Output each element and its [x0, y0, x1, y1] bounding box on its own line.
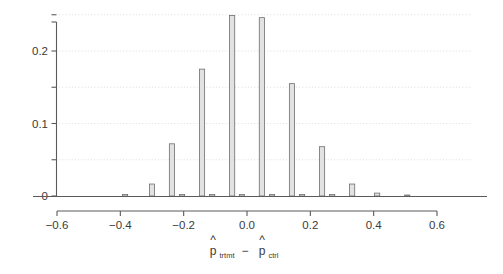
- histogram-bar: [239, 195, 244, 196]
- bar-0.411: [375, 193, 380, 196]
- bar-−0.385: [122, 194, 127, 196]
- bar-0.079: [269, 195, 274, 196]
- bar-−0.142: [199, 69, 204, 196]
- bar-−0.016: [239, 195, 244, 196]
- y-tick-label-0_1: 0.1: [32, 118, 48, 130]
- bar-−0.047: [230, 15, 235, 196]
- histogram-bar: [319, 147, 324, 196]
- x-tick-label-3: 0.0: [239, 219, 255, 231]
- histogram-bar: [300, 195, 305, 196]
- histogram-bar: [330, 195, 335, 196]
- bar-0.332: [350, 184, 355, 196]
- histogram-figure: 00.10.2−0.6−0.4−0.20.00.20.40.6p^trtmt−p…: [0, 0, 503, 274]
- bar-0.174: [300, 195, 305, 196]
- xlabel-hat-icon-2: ^: [259, 233, 265, 247]
- bar-−0.300: [149, 184, 154, 196]
- xlabel-subscript-ctrl: ctrl: [269, 251, 279, 260]
- x-tick-label-1: −0.4: [109, 219, 132, 231]
- histogram-bar: [259, 18, 264, 196]
- histogram-bar: [169, 144, 174, 196]
- bar-−0.205: [179, 195, 184, 196]
- xlabel-minus-sign: −: [241, 244, 248, 258]
- x-tick-label-4: 0.2: [302, 219, 318, 231]
- bar-0.269: [330, 195, 335, 196]
- xlabel-hat-icon-1: ^: [210, 233, 216, 247]
- x-tick-label-5: 0.4: [366, 219, 383, 231]
- histogram-bar: [375, 193, 380, 196]
- bar-−0.237: [169, 144, 174, 196]
- histogram-bar: [269, 195, 274, 196]
- bar-0.506: [405, 195, 410, 196]
- histogram-bar: [230, 15, 235, 196]
- x-tick-label-2: −0.2: [172, 219, 195, 231]
- histogram-bar: [210, 195, 215, 196]
- x-tick-label-0: −0.6: [46, 219, 69, 231]
- histogram-bar: [149, 184, 154, 196]
- histogram-bar: [289, 84, 294, 196]
- histogram-plot: 00.10.2−0.6−0.4−0.20.00.20.40.6p^trtmt−p…: [0, 0, 503, 274]
- histogram-bar: [405, 195, 410, 196]
- histogram-bar: [179, 195, 184, 196]
- bar-0.142: [289, 84, 294, 196]
- bar-0.047: [259, 18, 264, 196]
- histogram-bar: [199, 69, 204, 196]
- histogram-bar: [350, 184, 355, 196]
- bar-0.237: [319, 147, 324, 196]
- histogram-bar: [122, 194, 127, 196]
- x-tick-label-6: 0.6: [429, 219, 445, 231]
- y-tick-label-0_2: 0.2: [32, 45, 48, 57]
- bar-−0.110: [210, 195, 215, 196]
- xlabel-subscript-trtmt: trtmt: [220, 251, 236, 260]
